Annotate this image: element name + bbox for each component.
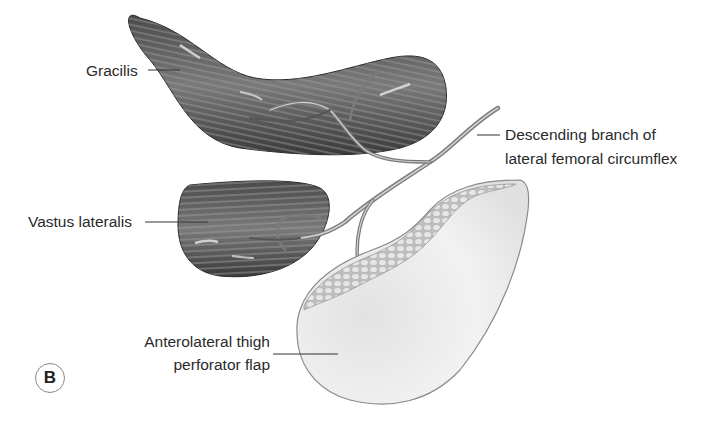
panel-label-badge: B <box>35 363 65 393</box>
label-alt-flap-2: perforator flap <box>100 355 270 374</box>
label-vastus-lateralis: Vastus lateralis <box>28 212 132 231</box>
label-descending-branch-2: lateral femoral circumflex <box>505 149 677 168</box>
label-gracilis: Gracilis <box>86 61 138 80</box>
anatomy-diagram: Gracilis Descending branch of lateral fe… <box>0 0 708 444</box>
label-descending-branch-1: Descending branch of <box>505 125 656 144</box>
gracilis-muscle <box>129 15 447 155</box>
alt-perforator-flap <box>297 180 529 404</box>
label-alt-flap-1: Anterolateral thigh <box>100 332 270 351</box>
vastus-lateralis-muscle <box>178 181 329 277</box>
